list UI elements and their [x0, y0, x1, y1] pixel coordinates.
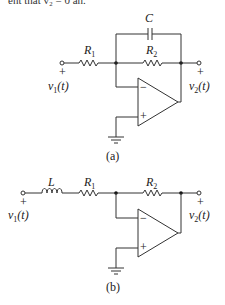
inductor-l-b — [42, 189, 62, 194]
resistor-r1-a — [79, 60, 98, 66]
svg-text:v2(t): v2(t) — [189, 79, 210, 95]
svg-text:R2: R2 — [145, 43, 157, 59]
svg-text:R2: R2 — [145, 175, 157, 191]
svg-text:−: − — [140, 80, 147, 94]
resistor-r2-a — [143, 60, 162, 66]
svg-text:+: + — [140, 109, 147, 123]
label-capacitor: C — [145, 11, 154, 25]
svg-text:+: + — [59, 65, 66, 79]
svg-text:−: − — [140, 211, 147, 225]
svg-text:v1(t): v1(t) — [8, 208, 29, 224]
caption-a: (a) — [106, 149, 119, 163]
circuit-b: L R1 R2 + + v1(t) v2(t) − + — [8, 175, 210, 274]
svg-text:R1: R1 — [83, 43, 95, 59]
circuit-diagrams: C R1 R2 + + v1(t) v2(t) − + (a) L R1 R2 … — [0, 0, 225, 305]
svg-text:+: + — [20, 195, 27, 209]
svg-text:+: + — [197, 65, 204, 79]
svg-text:v1(t): v1(t) — [48, 79, 69, 95]
label-inductor: L — [47, 175, 55, 189]
svg-text:+: + — [140, 240, 147, 254]
svg-text:v2(t): v2(t) — [189, 208, 210, 224]
svg-text:R1: R1 — [83, 175, 95, 191]
circuit-a: C R1 R2 + + v1(t) v2(t) − + — [48, 11, 210, 143]
caption-b: (b) — [106, 280, 120, 294]
svg-text:+: + — [197, 195, 204, 209]
